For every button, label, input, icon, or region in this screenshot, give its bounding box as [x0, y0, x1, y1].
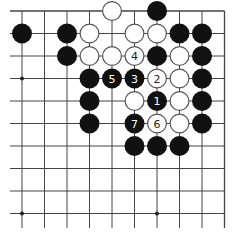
- black-stone: [80, 114, 100, 134]
- white-stone: [170, 47, 189, 66]
- move-number-label: 4: [131, 50, 138, 63]
- black-stone: [170, 24, 190, 44]
- move-number-label: 1: [154, 95, 161, 108]
- black-stone: 1: [147, 91, 167, 111]
- white-stone: [103, 2, 122, 21]
- white-stone: 2: [148, 69, 167, 88]
- star-point: [155, 212, 159, 216]
- black-stone: [192, 114, 212, 134]
- move-number-label: 5: [109, 73, 116, 86]
- white-stone: [125, 92, 144, 111]
- black-stone: [147, 1, 167, 21]
- black-stone: 5: [102, 69, 122, 89]
- move-number-label: 6: [154, 118, 161, 131]
- black-stone: [147, 46, 167, 66]
- black-stone: [80, 69, 100, 89]
- board-grid: [10, 11, 225, 228]
- black-stone: [192, 46, 212, 66]
- star-point: [20, 77, 24, 81]
- black-stone: [12, 24, 32, 44]
- star-point: [20, 212, 24, 216]
- white-stone: 4: [125, 47, 144, 66]
- black-stone: [170, 136, 190, 156]
- white-stone: [170, 92, 189, 111]
- white-stone: 6: [148, 114, 167, 133]
- black-stone: [192, 24, 212, 44]
- black-stone: [147, 136, 167, 156]
- white-stone: [125, 24, 144, 43]
- black-stone: [57, 46, 77, 66]
- black-stone: [125, 136, 145, 156]
- black-stone: [192, 69, 212, 89]
- black-stone: [192, 91, 212, 111]
- white-stone: [80, 24, 99, 43]
- black-stone: [57, 24, 77, 44]
- black-stone: 7: [125, 114, 145, 134]
- white-stone: [80, 47, 99, 66]
- white-stone: [170, 114, 189, 133]
- white-stone: [103, 47, 122, 66]
- black-stone: 3: [125, 69, 145, 89]
- go-board: 4532176: [0, 0, 235, 235]
- move-number-label: 3: [131, 73, 138, 86]
- black-stone: [80, 91, 100, 111]
- move-number-label: 2: [154, 73, 161, 86]
- white-stone: [148, 24, 167, 43]
- white-stone: [170, 69, 189, 88]
- move-number-label: 7: [131, 118, 138, 131]
